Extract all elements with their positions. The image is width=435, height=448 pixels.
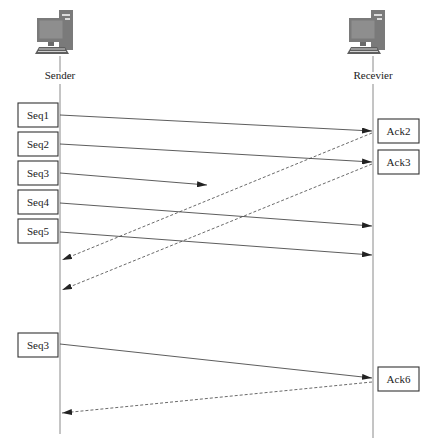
seq-label: Seq2 [27, 138, 49, 150]
message-ack2 [62, 133, 372, 260]
ack-label: Ack3 [387, 156, 411, 168]
seq-box: Seq3 [18, 161, 58, 185]
seq-label: Seq1 [27, 109, 49, 121]
message-seq2 [60, 144, 372, 162]
ack-box: Ack3 [378, 150, 419, 174]
ack-label: Ack2 [387, 125, 411, 137]
seq-box: Seq3 [18, 333, 58, 357]
seq-label: Seq3 [27, 339, 50, 351]
sender-boxes: Seq1 Seq2 Seq3 Seq4 Seq5 Seq3 [18, 103, 58, 357]
message-seq4 [60, 203, 372, 226]
ack-box: Ack2 [378, 119, 419, 143]
receiver-boxes: Ack2 Ack3 Ack6 [378, 119, 419, 391]
seq-label: Seq5 [27, 225, 50, 237]
ack-box: Ack6 [378, 367, 419, 391]
message-seq5 [60, 232, 372, 255]
message-seq1 [60, 115, 372, 131]
desktop-computer-icon [35, 10, 73, 54]
sequence-diagram: Sender Recevier Seq1 Seq2 [0, 0, 435, 448]
seq-label: Seq3 [27, 167, 50, 179]
messages [60, 115, 372, 413]
seq-box: Seq1 [18, 103, 58, 127]
message-seq3-retransmit [60, 344, 372, 378]
desktop-computer-icon [347, 10, 385, 54]
message-ack6 [62, 382, 372, 413]
message-seq3-lost [60, 173, 207, 185]
seq-box: Seq5 [18, 219, 58, 243]
ack-label: Ack6 [387, 373, 411, 385]
seq-box: Seq2 [18, 132, 58, 156]
seq-box: Seq4 [18, 190, 58, 214]
message-ack3 [62, 164, 372, 290]
seq-label: Seq4 [27, 196, 50, 208]
